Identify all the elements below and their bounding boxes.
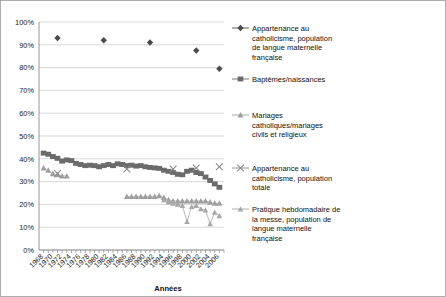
- legend-label: Appartenance au: [252, 24, 309, 33]
- legend-label: catholicisme, population: [252, 174, 332, 183]
- y-tick-label: 70%: [19, 86, 34, 95]
- legend-label: civils et religieux: [252, 130, 307, 139]
- y-tick-label: 60%: [19, 109, 34, 118]
- legend-label: de langue maternelle: [252, 43, 322, 52]
- chart-container: 0%10%20%30%40%50%60%70%80%90%100% 196819…: [0, 0, 446, 297]
- y-tick-label: 40%: [19, 155, 34, 164]
- legend-label: française: [252, 53, 282, 62]
- legend-label: française: [252, 234, 282, 243]
- y-tick-label: 10%: [19, 223, 34, 232]
- legend-label: totale: [252, 183, 270, 192]
- y-tick-label: 20%: [19, 200, 34, 209]
- data-point-triangle: [212, 210, 218, 215]
- legend-label: langue maternelle: [252, 224, 312, 233]
- data-point-triangle: [207, 221, 213, 226]
- legend-item-3[interactable]: Appartenance aucatholicisme, populationt…: [232, 164, 332, 192]
- x-axis-title: Années: [154, 284, 181, 293]
- legend-label: Pratique hebdomadaire de: [252, 205, 340, 214]
- legend-label: Baptêmes/naissances: [252, 75, 326, 84]
- legend-label: Mariages: [252, 111, 283, 120]
- data-point-diamond: [101, 37, 107, 43]
- data-point-diamond: [193, 47, 199, 53]
- data-point-triangle: [184, 219, 190, 224]
- series-0: [54, 35, 222, 72]
- data-point-square: [216, 185, 222, 190]
- legend-item-1[interactable]: Baptêmes/naissances: [232, 75, 326, 84]
- legend-label: catholiques/mariages: [252, 121, 323, 130]
- x-axis-tick-labels: 1968197019721974197619781980198219841986…: [27, 252, 220, 270]
- y-tick-label: 0%: [23, 246, 34, 255]
- chart-legend: Appartenance aucatholicisme, populationd…: [232, 24, 340, 243]
- data-point-square: [238, 77, 244, 82]
- legend-label: catholicisme, population: [252, 34, 332, 43]
- data-point-diamond: [216, 66, 222, 72]
- legend-item-0[interactable]: Appartenance aucatholicisme, populationd…: [232, 24, 332, 62]
- plot-area-series: [41, 35, 223, 226]
- data-point-cross: [216, 163, 223, 170]
- series-1: [41, 151, 223, 190]
- y-tick-label: 50%: [19, 132, 34, 141]
- data-point-triangle: [217, 213, 223, 218]
- catholicism-indicators-line-chart: 0%10%20%30%40%50%60%70%80%90%100% 196819…: [0, 0, 446, 297]
- data-point-diamond: [237, 25, 243, 31]
- data-point-triangle: [198, 206, 204, 211]
- data-point-diamond: [54, 35, 60, 41]
- legend-item-2[interactable]: Mariagescatholiques/mariagescivils et re…: [232, 111, 323, 139]
- y-tick-label: 100%: [15, 18, 34, 27]
- y-tick-label: 30%: [19, 177, 34, 186]
- y-axis-tick-labels: 0%10%20%30%40%50%60%70%80%90%100%: [15, 18, 34, 255]
- gridlines: [39, 22, 224, 250]
- data-point-triangle: [41, 165, 47, 171]
- legend-label: Appartenance au: [252, 164, 309, 173]
- y-tick-label: 90%: [19, 41, 34, 50]
- legend-label: la messe, population de: [252, 215, 331, 224]
- data-point-triangle: [156, 193, 162, 199]
- y-tick-label: 80%: [19, 63, 34, 72]
- legend-item-4[interactable]: Pratique hebdomadaire dela messe, popula…: [232, 205, 340, 243]
